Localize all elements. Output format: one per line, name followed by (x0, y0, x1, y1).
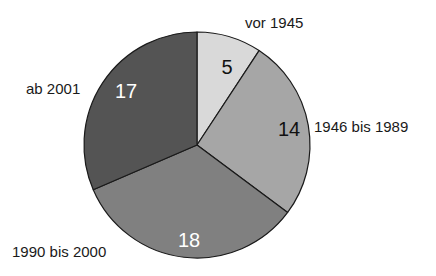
category-label-1990-bis-2000: 1990 bis 2000 (12, 243, 106, 260)
category-label-vor-1945: vor 1945 (245, 14, 303, 31)
pie-chart: 5 14 18 17 vor 1945 1946 bis 1989 1990 b… (0, 0, 436, 276)
value-label-1946-bis-1989: 14 (278, 118, 300, 140)
value-label-ab-2001: 17 (115, 80, 137, 102)
value-label-vor-1945: 5 (221, 56, 232, 78)
pie-slices (84, 32, 310, 258)
category-label-ab-2001: ab 2001 (26, 80, 80, 97)
pie-chart-graphic: 5 14 18 17 (0, 0, 436, 276)
category-label-1946-bis-1989: 1946 bis 1989 (314, 118, 408, 135)
value-label-1990-bis-2000: 18 (178, 229, 200, 251)
